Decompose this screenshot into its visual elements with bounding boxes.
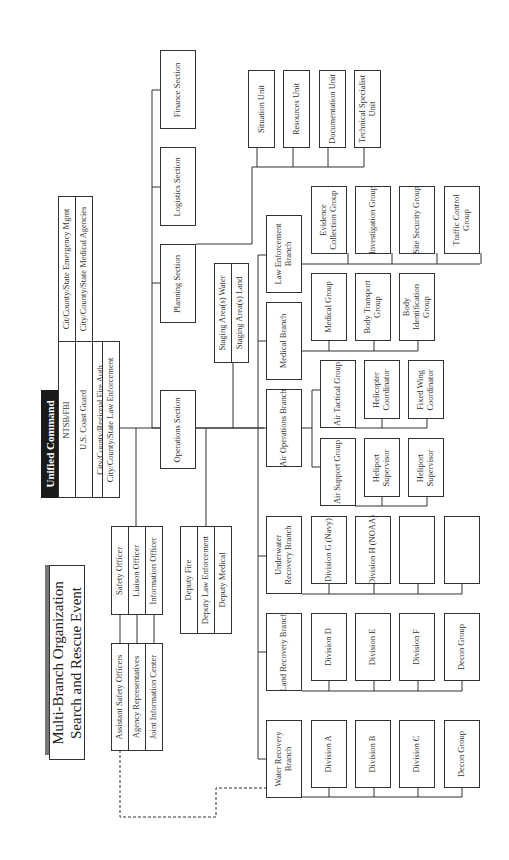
joint-information-center: Joint Information Center [145,643,163,751]
law-enforcement-branch: Law Enforcement Branch [266,215,302,293]
uc-member-ntsb-fbi: NTSB/FBI [58,341,76,498]
org-chart: Multi-Branch Organization Search and Res… [0,0,509,860]
division-b: Division B [355,720,391,788]
medical-branch: Medical Branch [266,302,302,380]
water-recovery-branch: Water Recovery Branch [266,720,302,798]
staging-area-water: Staging Area(s) Water [214,263,232,363]
title-line-1: Multi-Branch Organization [49,581,67,744]
division-c: Division C [399,720,435,788]
chart-title: Multi-Branch Organization Search and Res… [49,565,85,760]
deputy-fire: Deputy Fire [180,526,198,634]
uc-member-emergency-mgmt: Cit/County/State Emergency Mgmt [58,196,76,342]
resources-unit: Resources Unit [283,70,310,148]
helicopter-coordinator: Helicopter Coordinator [364,360,400,419]
air-support-group: Air Support Group [320,438,356,506]
agency-representatives: Agency Representatives [128,643,146,751]
safety-officer: Safety Officer [111,526,129,615]
underwater-recovery-branch: Underwater Recovery Branch [266,516,302,594]
division-a: Division A [311,720,347,788]
evidence-collection-group: Evidence Collection Group [311,186,347,254]
deputy-law-enforcement: Deputy Law Enforcement [197,526,215,634]
air-tactical-group: Air Tactical Group [320,360,356,428]
information-officer: Information Officer [145,526,163,615]
division-g-navy: Division G (Navy) [311,516,347,584]
uc-member-medical-agencies: City/County/State Medical Agencies [75,196,93,342]
land-decon-group: Decon Group [444,613,480,681]
documentation-unit: Documentation Unit [319,70,346,148]
staging-area-land: Staging Area(s) Land [231,263,249,363]
uc-member-coast-guard: U.S. Coast Guard [75,341,93,498]
operations-section: Operations Section [160,390,196,469]
logistics-section: Logistics Section [160,147,196,226]
liaison-officer: Liaison Officer [128,526,146,615]
uc-member-law-enforcement: City/County/State Law Enforcement [102,341,120,498]
situation-unit: Situation Unit [248,70,275,148]
air-operations-branch: Air Operations Branch [266,389,302,467]
traffic-control-group: Traffic Control Group [444,186,480,254]
division-e: Division E [355,613,391,681]
division-f: Division F [399,613,435,681]
water-decon-group: Decon Group [444,720,480,788]
heliport-supervisor-1: Heliport Supervisor [364,438,400,497]
site-security-group: Site Security Group [399,186,435,254]
deputy-medical: Deputy Medical [214,526,232,634]
title-line-2: Search and Rescue Event [67,581,85,744]
fixed-wing-coordinator: Fixed Wing Coordinator [408,360,444,419]
division-h-noaa: Division H (NOAA) [355,516,391,584]
heliport-supervisor-2: Heliport Supervisor [408,438,444,497]
body-transport-group: Body Transport Group [355,273,391,341]
planning-section: Planning Section [160,244,196,323]
finance-section: Finance Section [160,50,196,129]
unified-command-header: Unified Command [41,390,59,498]
assistant-safety-officers: Assistant Safety Officers [111,643,129,751]
land-recovery-branch: Land Recovery Branch [266,613,302,691]
investigation-group: Investigation Group [355,186,391,254]
division-d: Division D [311,613,347,681]
technical-specialist-unit: Technical Specialist Unit [354,70,381,148]
underwater-empty-box-2 [444,516,480,584]
body-identification-group: Body Identification Group [399,273,435,341]
medical-group: Medical Group [311,273,347,341]
underwater-empty-box-1 [399,516,435,584]
